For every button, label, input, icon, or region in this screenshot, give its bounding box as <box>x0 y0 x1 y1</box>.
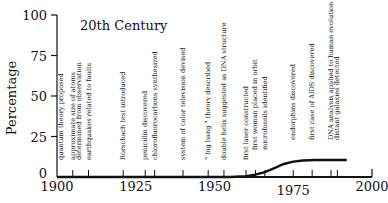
y-tick-label: 100 <box>22 8 47 23</box>
event-label: determined from observation <box>75 61 83 160</box>
y-tick-label: 75 <box>30 49 47 64</box>
event-label: earthquakes related to faults <box>85 62 93 160</box>
x-tick-label: 2000 <box>355 179 388 194</box>
event-label: system of color television devised <box>179 47 187 160</box>
percentage-curve <box>57 160 347 177</box>
event-label: first woman placed in orbit <box>251 59 259 150</box>
y-tick-label: 25 <box>30 130 47 145</box>
event-label: chlorofluorocarbons synthesized <box>151 50 159 160</box>
event-label: distant galaxies detected <box>333 55 341 140</box>
x-tick-label: 1900 <box>40 179 73 194</box>
event-label: quantum theory proposed <box>57 73 65 160</box>
event-label: " big bang " theory described <box>204 61 212 160</box>
timeline-chart: 20th Century Percentage 0255075100190019… <box>0 0 388 203</box>
event-label: double helix suggested as DNA structure <box>220 22 228 160</box>
event-label: penicillin discovered <box>141 90 149 160</box>
x-tick-label: 1975 <box>277 183 310 198</box>
y-tick-label: 50 <box>30 89 47 104</box>
chart-title: 20th Century <box>80 18 168 33</box>
event-label: Rorschach test introduced <box>119 71 127 160</box>
event-label: microfossils identified <box>261 75 269 150</box>
y-axis-label: Percentage <box>4 60 19 135</box>
x-tick-label: 1925 <box>119 179 152 194</box>
event-label: endorphins discovered <box>289 63 297 140</box>
event-label: first laser constructed <box>242 85 250 160</box>
event-label: first case of AIDS discovered <box>308 42 316 140</box>
x-tick-label: 1950 <box>198 179 231 194</box>
